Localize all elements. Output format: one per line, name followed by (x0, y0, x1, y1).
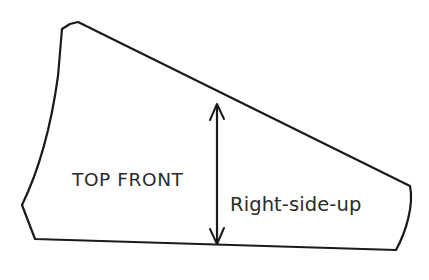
pattern-piece-svg: TOP FRONT Right-side-up (0, 0, 429, 280)
pattern-diagram: TOP FRONT Right-side-up (0, 0, 429, 280)
label-top-front: TOP FRONT (71, 169, 184, 190)
label-right-side-up: Right-side-up (230, 193, 361, 216)
